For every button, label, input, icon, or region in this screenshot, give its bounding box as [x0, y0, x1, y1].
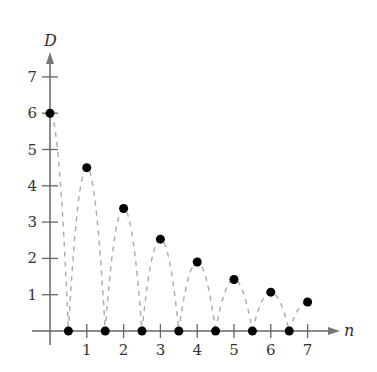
- data-point: [46, 109, 55, 118]
- x-tick-label: 3: [156, 341, 166, 359]
- dashed-arc: [289, 302, 307, 331]
- data-point: [156, 235, 165, 244]
- dashed-arc: [142, 239, 179, 331]
- x-axis-arrow-icon: [328, 327, 340, 335]
- x-tick-label: 7: [303, 341, 313, 359]
- data-point: [64, 327, 73, 336]
- x-tick-label: 1: [82, 341, 92, 359]
- x-tick-label: 5: [229, 341, 239, 359]
- data-point: [211, 327, 220, 336]
- data-point: [248, 327, 257, 336]
- data-point: [285, 327, 294, 336]
- y-axis-arrow-icon: [46, 52, 54, 64]
- bouncing-ball-chart: 1234567 1234567 D n: [0, 0, 377, 372]
- data-point: [138, 327, 147, 336]
- y-tick-label: 5: [27, 141, 37, 159]
- x-tick-label: 6: [266, 341, 276, 359]
- x-tick-label: 4: [192, 341, 202, 359]
- y-tick-label: 7: [27, 68, 37, 86]
- y-tick-label: 1: [27, 286, 37, 304]
- dashed-arc: [105, 209, 142, 332]
- x-ticks: 1234567: [82, 324, 312, 359]
- data-point: [119, 204, 128, 213]
- y-ticks: 1234567: [27, 68, 58, 304]
- data-point: [303, 297, 312, 306]
- dashed-arcs: [50, 113, 308, 331]
- data-point: [193, 258, 202, 267]
- dashed-arc: [179, 262, 216, 331]
- y-tick-label: 3: [27, 213, 37, 231]
- y-tick-label: 2: [27, 249, 37, 267]
- data-point: [101, 327, 110, 336]
- y-axis-label: D: [43, 31, 57, 50]
- x-tick-label: 2: [119, 341, 129, 359]
- y-tick-label: 4: [27, 177, 37, 195]
- dashed-arc: [68, 168, 105, 331]
- dashed-arc: [216, 280, 253, 332]
- x-axis-label: n: [344, 321, 354, 340]
- data-point: [266, 288, 275, 297]
- y-tick-label: 6: [27, 104, 37, 122]
- data-points: [46, 109, 313, 336]
- data-point: [82, 163, 91, 172]
- data-point: [230, 275, 239, 284]
- data-point: [174, 327, 183, 336]
